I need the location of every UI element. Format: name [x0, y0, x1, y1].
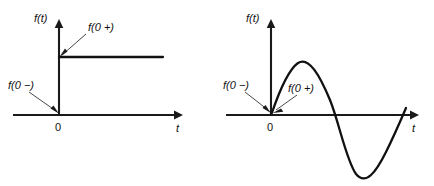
left-fminus-leader-arrowhead	[51, 106, 59, 114]
signal-figure: f(t) t f(0 +) f(0 −) 0 f(t) t	[0, 0, 434, 186]
left-x-axis-label: t	[176, 122, 180, 134]
right-y-axis-label: f(t)	[246, 12, 260, 24]
right-f-zero-minus-label: f(0 −)	[223, 79, 249, 91]
left-t-axis-arrowhead	[174, 111, 183, 120]
left-origin-label: 0	[55, 121, 61, 133]
sine-wave-curve	[272, 62, 407, 179]
left-f-axis-arrowhead	[55, 19, 64, 28]
right-f-axis-arrowhead	[267, 19, 276, 28]
left-panel-step-function: f(t) t f(0 +) f(0 −) 0	[8, 12, 183, 134]
left-fplus-leader-arrowhead	[60, 49, 68, 58]
left-y-axis-label: f(t)	[34, 12, 48, 24]
left-f-zero-minus-label: f(0 −)	[8, 79, 34, 91]
right-f-zero-plus-label: f(0 +)	[288, 82, 314, 94]
right-panel-sine-wave: f(t) t f(0 −) f(0 +) 0	[223, 12, 419, 178]
right-fplus-leader-line	[276, 95, 297, 110]
right-x-axis-label: t	[412, 122, 416, 134]
right-origin-label: 0	[267, 121, 273, 133]
right-t-axis-arrowhead	[410, 111, 419, 120]
left-f-zero-plus-label: f(0 +)	[88, 21, 114, 33]
